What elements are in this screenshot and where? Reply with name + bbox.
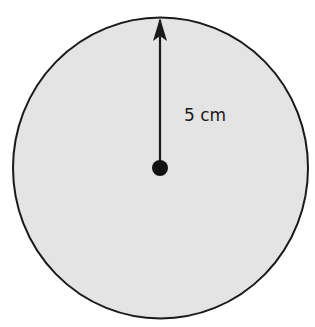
circle-diagram: 5 cm: [0, 0, 315, 327]
radius-label: 5 cm: [184, 105, 226, 125]
center-point: [152, 160, 168, 176]
